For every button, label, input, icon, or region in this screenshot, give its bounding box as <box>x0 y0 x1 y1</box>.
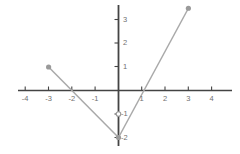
x-tick-label-4: 4 <box>204 95 220 103</box>
descending-branch-line <box>49 67 119 138</box>
ascending-branch-line <box>119 8 189 137</box>
x-tick-label-1: 1 <box>134 95 150 103</box>
x-tick-label--3: -3 <box>41 95 57 103</box>
endpoint-dot-right <box>186 6 191 11</box>
y-tick-label--1: -1 <box>121 110 128 118</box>
x-tick-label--2: -2 <box>64 95 80 103</box>
x-tick-label-2: 2 <box>157 95 173 103</box>
x-tick-label--4: -4 <box>17 95 33 103</box>
x-tick-label-3: 3 <box>180 95 196 103</box>
coordinate-plane-svg <box>0 0 240 154</box>
y-tick-label--2: -2 <box>121 134 128 142</box>
y-tick-label-1: 1 <box>123 63 127 71</box>
endpoint-dot-left <box>46 64 51 69</box>
y-tick-label-2: 2 <box>123 39 127 47</box>
graph-canvas: -4 -3 -2 -1 1 2 3 4 3 2 1 -1 -2 <box>0 0 240 154</box>
x-tick-label--1: -1 <box>87 95 103 103</box>
y-tick-label-3: 3 <box>123 16 127 24</box>
